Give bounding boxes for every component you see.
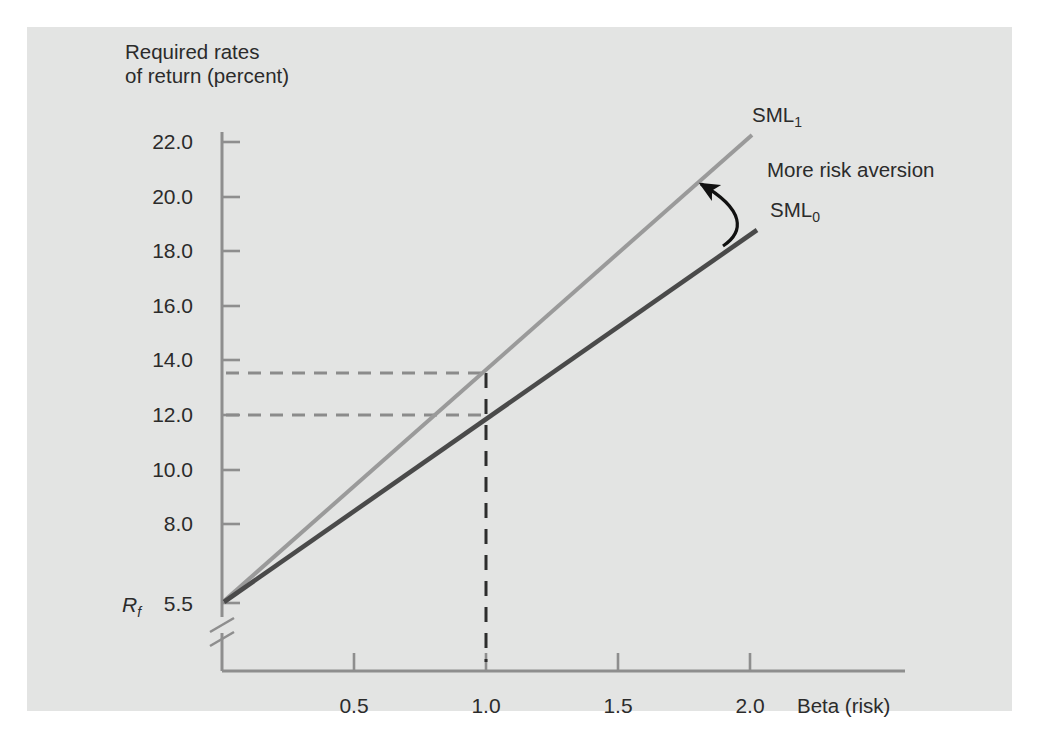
series-label-sml1: SML1: [752, 103, 802, 131]
guide-lines: [226, 373, 486, 662]
y-axis-title-line1: Required rates: [125, 40, 259, 63]
more-risk-aversion-arrow-icon: [701, 184, 737, 246]
series-label-sml1-subscript: 1: [794, 114, 802, 130]
y-tick-label-14: 14.0: [115, 348, 193, 373]
x-axis-ticks: [354, 653, 750, 671]
figure-canvas: Required ratesof return (percent) Beta (…: [0, 0, 1039, 749]
y-axis-title: Required ratesof return (percent): [125, 40, 289, 88]
x-tick-label-1-0: 1.0: [446, 694, 526, 719]
series-label-sml0: SML0: [770, 198, 820, 226]
x-axis-title: Beta (risk): [797, 694, 890, 718]
y-tick-label-18: 18.0: [115, 239, 193, 264]
series-line-sml1: [224, 135, 752, 601]
chart-plot-area: [0, 0, 1039, 749]
x-tick-label-1-5: 1.5: [578, 694, 658, 719]
series-label-sml0-subscript: 0: [812, 209, 820, 225]
y-axis-title-line2: of return (percent): [125, 64, 289, 87]
y-tick-label-12: 12.0: [115, 403, 193, 428]
y-tick-label-16: 16.0: [115, 294, 193, 319]
annotation-more-risk-aversion: More risk aversion: [767, 158, 934, 182]
axis-break-mark-upper: [210, 618, 234, 632]
x-tick-label-0-5: 0.5: [314, 694, 394, 719]
risk-free-rate-subscript: f: [137, 604, 141, 620]
series-label-sml0-text: SML: [770, 198, 812, 221]
y-tick-label-8: 8.0: [115, 512, 193, 537]
y-tick-label-22: 22.0: [115, 130, 193, 155]
x-tick-label-2-0: 2.0: [710, 694, 790, 719]
risk-free-rate-label: Rf: [122, 593, 141, 621]
y-tick-label-20: 20.0: [115, 185, 193, 210]
y-tick-label-10: 10.0: [115, 458, 193, 483]
series-label-sml1-text: SML: [752, 103, 794, 126]
risk-free-rate-symbol: R: [122, 593, 137, 616]
